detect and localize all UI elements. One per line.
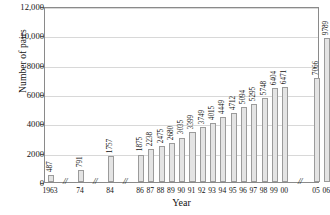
bar-slot[interactable]: 2238 xyxy=(148,6,154,182)
x-axis-title: Year xyxy=(44,197,319,208)
bar[interactable] xyxy=(324,38,330,182)
y-axis-tick-label: 0 xyxy=(0,178,44,188)
bar-value-label: 4712 xyxy=(230,96,237,110)
x-axis-tick-label: 00 xyxy=(280,186,288,195)
bar-slot[interactable]: 7066 xyxy=(314,6,320,182)
y-axis-tick-mark xyxy=(40,183,44,184)
bar[interactable] xyxy=(282,87,288,182)
x-axis-tick-label: 95 xyxy=(229,186,237,195)
axis-break-marker: // xyxy=(298,177,302,186)
bar-slot[interactable]: 791 xyxy=(78,6,84,182)
x-axis-tick-label: 98 xyxy=(260,186,268,195)
bar[interactable] xyxy=(314,78,320,182)
bar-value-label: 5094 xyxy=(240,90,247,104)
x-axis-tick-label: 93 xyxy=(208,186,216,195)
bar-slot[interactable]: 2680 xyxy=(169,6,175,182)
x-axis-tick-label: 74 xyxy=(76,186,84,195)
bar-value-label: 3035 xyxy=(178,120,185,134)
x-axis-tick-label: 1963 xyxy=(42,186,57,195)
x-axis-tick-label: 99 xyxy=(270,186,278,195)
axis-break-marker: // xyxy=(123,177,127,186)
bar-value-label: 3749 xyxy=(199,110,206,124)
y-axis-tick-label: 6000 xyxy=(0,90,44,100)
y-axis-tick-label: 10,000 xyxy=(0,31,44,41)
y-axis-tick-label: 4000 xyxy=(0,119,44,129)
bar[interactable] xyxy=(169,143,175,182)
bar-value-label: 5748 xyxy=(261,80,268,94)
bar-slot[interactable]: 3749 xyxy=(200,6,206,182)
bar-value-label: 6404 xyxy=(271,71,278,85)
bar[interactable] xyxy=(138,155,144,183)
x-axis-tick-label: 05 xyxy=(312,186,320,195)
bar-slot[interactable]: 487 xyxy=(48,6,54,182)
bar-slot[interactable]: 4712 xyxy=(231,6,237,182)
bar-slot[interactable]: 9789 xyxy=(324,6,330,182)
bar-slot[interactable]: 1875 xyxy=(138,6,144,182)
bar[interactable] xyxy=(189,132,195,182)
bar-slot[interactable]: 3399 xyxy=(189,6,195,182)
bar[interactable] xyxy=(78,170,84,182)
bar[interactable] xyxy=(159,146,165,182)
x-axis-tick-label: 96 xyxy=(239,186,247,195)
bar-value-label: 7066 xyxy=(313,61,320,75)
y-axis-tick-label: 2000 xyxy=(0,149,44,159)
x-axis-tick-label: 89 xyxy=(167,186,175,195)
x-axis-tick-label: 87 xyxy=(147,186,155,195)
bar[interactable] xyxy=(179,138,185,183)
bar-value-label: 791 xyxy=(77,157,84,168)
bar-slot[interactable]: 5295 xyxy=(251,6,257,182)
x-axis-tick-label: 92 xyxy=(198,186,206,195)
bar-value-label: 3399 xyxy=(188,115,195,129)
bar-series: 4877911757187522382475268030353399374940… xyxy=(45,8,318,182)
bar[interactable] xyxy=(251,104,257,182)
bar[interactable] xyxy=(262,98,268,182)
bar[interactable] xyxy=(272,88,278,182)
bar-value-label: 9789 xyxy=(323,21,330,35)
bar-slot[interactable]: 5094 xyxy=(241,6,247,182)
bar[interactable] xyxy=(200,127,206,182)
bar-slot[interactable]: 6471 xyxy=(282,6,288,182)
axis-break-marker: // xyxy=(63,177,67,186)
bar-value-label: 2475 xyxy=(158,128,165,142)
bar-slot[interactable]: 6404 xyxy=(272,6,278,182)
bar[interactable] xyxy=(210,123,216,182)
bar-slot[interactable]: 4015 xyxy=(210,6,216,182)
bar[interactable] xyxy=(108,156,114,182)
bar-slot[interactable]: 5748 xyxy=(262,6,268,182)
bar-slot[interactable]: 1757 xyxy=(108,6,114,182)
bar[interactable] xyxy=(148,149,154,182)
bar-slot[interactable]: 3035 xyxy=(179,6,185,182)
x-axis-tick-label: 91 xyxy=(188,186,196,195)
y-axis-tick-label: 12,000 xyxy=(0,2,44,12)
bar-value-label: 1875 xyxy=(137,137,144,151)
bar[interactable] xyxy=(231,113,237,182)
bar-slot[interactable]: 4449 xyxy=(220,6,226,182)
x-axis-tick-label: 84 xyxy=(106,186,114,195)
bar-value-label: 487 xyxy=(47,161,54,172)
bar-value-label: 2680 xyxy=(168,125,175,139)
x-axis-tick-label: 97 xyxy=(250,186,258,195)
bar[interactable] xyxy=(48,175,54,182)
x-axis-tick-label: 88 xyxy=(157,186,165,195)
axis-break-marker: // xyxy=(93,177,97,186)
x-axis-tick-label: 94 xyxy=(219,186,227,195)
bar[interactable] xyxy=(220,117,226,182)
plot-area: 4877911757187522382475268030353399374940… xyxy=(44,7,319,183)
bar-value-label: 4015 xyxy=(209,106,216,120)
y-axis-tick-label: 8000 xyxy=(0,61,44,71)
x-axis-tick-label: 86 xyxy=(136,186,144,195)
x-axis-tick-label: 06 xyxy=(323,186,330,195)
bar-value-label: 2238 xyxy=(147,132,154,146)
bar-value-label: 5295 xyxy=(250,87,257,101)
bar-slot[interactable]: 2475 xyxy=(159,6,165,182)
x-axis-tick-label: 90 xyxy=(177,186,185,195)
bar[interactable] xyxy=(241,107,247,182)
bar-value-label: 1757 xyxy=(107,139,114,153)
bar-value-label: 6471 xyxy=(281,70,288,84)
bar-value-label: 4449 xyxy=(219,99,226,113)
